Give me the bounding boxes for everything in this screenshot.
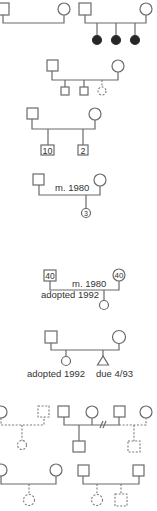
dashed-male-child-symbol bbox=[115, 494, 127, 506]
offspring-family bbox=[47, 60, 124, 95]
male-child-symbol bbox=[80, 87, 88, 95]
female-symbol bbox=[86, 406, 98, 418]
pedigree-diagram: 10 2 m. 1980 3 40 40 m. 1980 adopted 199… bbox=[0, 0, 157, 511]
dashed-child-symbol bbox=[18, 441, 27, 450]
count-3-label: 3 bbox=[84, 210, 88, 217]
affected-female-symbol bbox=[131, 36, 140, 45]
male-child-symbol bbox=[61, 87, 69, 95]
donor-family-right bbox=[78, 465, 144, 506]
dashed-child-symbol bbox=[24, 495, 35, 506]
female-symbol bbox=[140, 3, 152, 15]
male-symbol bbox=[33, 174, 44, 185]
female-symbol bbox=[58, 3, 70, 15]
female-symbol bbox=[113, 331, 126, 344]
male-symbol bbox=[47, 60, 58, 71]
count-10-label: 10 bbox=[42, 146, 52, 156]
partnership-line bbox=[52, 71, 118, 80]
female-symbol bbox=[94, 174, 106, 186]
adopted-female-symbol bbox=[62, 357, 71, 366]
dashed-male-symbol bbox=[38, 406, 49, 417]
pregnancy-family: adopted 1992 due 4/93 bbox=[27, 331, 133, 380]
partnership-line bbox=[51, 343, 119, 350]
male-symbol bbox=[27, 108, 38, 119]
married-couple-family: m. 1980 3 bbox=[33, 174, 106, 218]
female-symbol bbox=[50, 464, 62, 476]
count-2-label: 2 bbox=[80, 146, 85, 156]
adopted-female-symbol bbox=[100, 301, 109, 310]
male-symbol bbox=[114, 406, 125, 417]
dashed-child-symbol bbox=[92, 495, 103, 506]
age-female-label: 40 bbox=[115, 271, 124, 280]
marriage-label: m. 1980 bbox=[72, 278, 106, 289]
male-symbol bbox=[78, 465, 89, 476]
couple-no-children bbox=[0, 3, 70, 23]
affected-female-symbol bbox=[112, 36, 121, 45]
male-symbol bbox=[133, 465, 144, 476]
partnership-line bbox=[85, 15, 146, 23]
male-symbol bbox=[79, 3, 91, 15]
remarriage-family bbox=[0, 406, 152, 452]
marriage-label: m. 1980 bbox=[55, 182, 89, 193]
donor-family-left bbox=[0, 464, 62, 506]
pregnancy-symbol bbox=[98, 356, 109, 365]
female-symbol bbox=[0, 406, 7, 418]
female-symbol bbox=[0, 464, 7, 476]
affected-children-family bbox=[79, 3, 152, 45]
multiple-offspring-family: 10 2 bbox=[27, 108, 101, 156]
adopted-label: adopted 1992 bbox=[27, 368, 85, 379]
female-symbol bbox=[112, 60, 124, 72]
male-symbol bbox=[58, 406, 69, 417]
male-symbol bbox=[45, 331, 57, 343]
male-child-symbol bbox=[73, 441, 85, 452]
adopted-label: adopted 1992 bbox=[41, 289, 99, 300]
age-male-label: 40 bbox=[45, 271, 55, 281]
affected-female-symbol bbox=[93, 36, 102, 45]
partnership-line bbox=[32, 119, 95, 129]
female-symbol bbox=[89, 108, 101, 120]
adoption-family: 40 40 m. 1980 adopted 1992 bbox=[41, 269, 125, 310]
partnership-line bbox=[3, 15, 64, 23]
due-date-label: due 4/93 bbox=[96, 368, 133, 379]
dashed-female-symbol bbox=[98, 87, 106, 95]
female-symbol bbox=[140, 406, 152, 418]
male-symbol bbox=[0, 3, 9, 15]
dashed-male-child-symbol bbox=[128, 441, 140, 452]
